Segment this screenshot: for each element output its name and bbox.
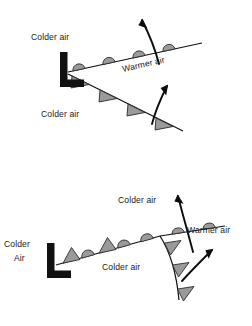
occluded-front-triangle [63, 248, 80, 264]
upper-colder-air-bottom-label: Colder air [41, 109, 79, 119]
lower-colder-air-top-label: Colder air [118, 195, 156, 205]
cold-front-triangle [127, 104, 145, 116]
warm-front-semicircle [73, 64, 85, 71]
cold-front-triangle [165, 241, 182, 256]
lower-occluded-front-symbols [63, 234, 153, 263]
occluded-front-semicircle [82, 250, 95, 258]
upper-panel: Colder air Warmer air Colder air [31, 19, 202, 131]
warm-front-semicircle [133, 51, 145, 58]
upper-cold-air-advection-arrow [152, 85, 168, 124]
upper-colder-air-top-label: Colder air [31, 32, 69, 42]
warm-front-semicircle [172, 228, 184, 234]
lower-cold-front-symbols [165, 241, 195, 302]
occluded-front-semicircle [141, 234, 154, 242]
upper-warmer-air-label: Warmer air [121, 54, 165, 73]
cold-front-triangle [155, 118, 173, 130]
upper-cold-front-symbols [71, 76, 173, 130]
cold-front-triangle [99, 90, 117, 102]
lower-colder-air-left-label-line2: Air [14, 253, 25, 263]
occluded-front-semicircle [118, 240, 131, 248]
lower-colder-air-bottom-label: Colder air [102, 262, 140, 272]
warm-front-semicircle [103, 57, 115, 64]
lower-warmer-air-label: Warmer air [187, 225, 230, 235]
cold-front-triangle [178, 287, 195, 302]
occluded-front-triangle [99, 238, 116, 254]
warm-front-semicircle [163, 44, 175, 51]
lower-colder-air-left-label-line1: Colder [4, 239, 30, 249]
lower-panel: Colder Air Colder air Warmer air Colder … [4, 194, 230, 301]
front-occlusion-diagram: Colder air Warmer air Colder air [0, 0, 252, 326]
